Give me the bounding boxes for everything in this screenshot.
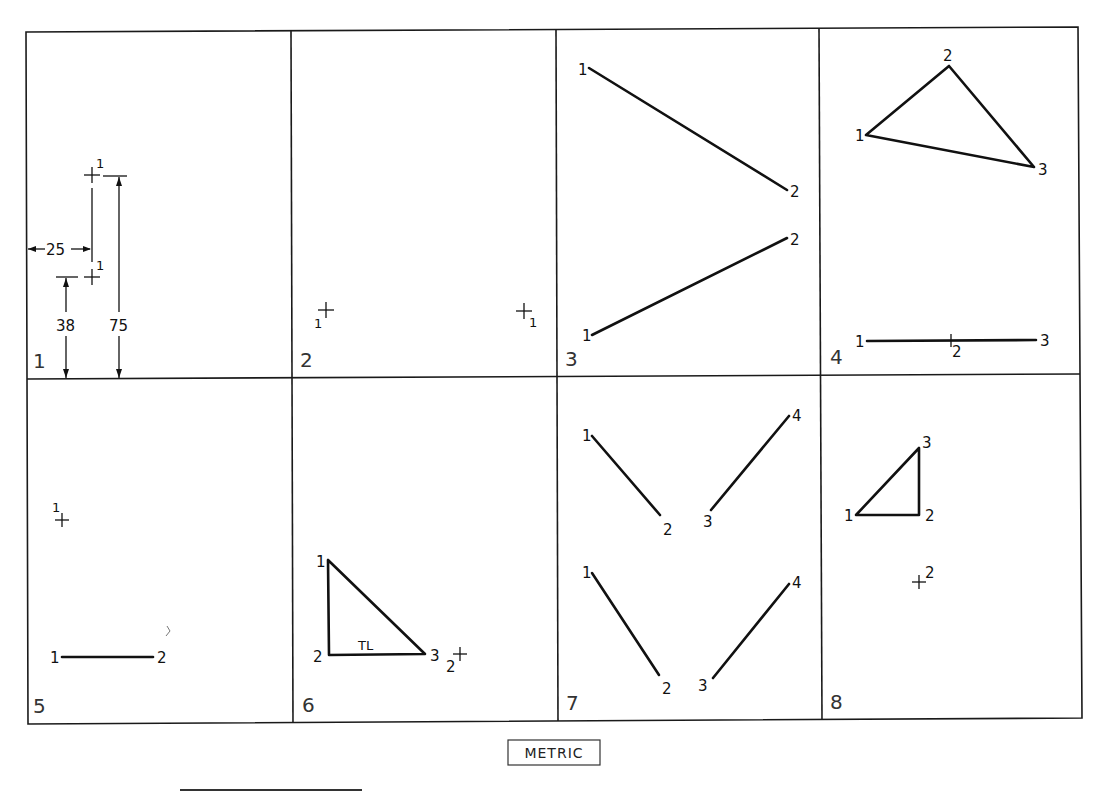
vertex-label: 2: [313, 648, 323, 666]
point-label: 3: [1040, 332, 1050, 350]
point-label: 2: [925, 564, 935, 582]
point-label: 1: [96, 156, 104, 171]
dimension-value-25: 25: [46, 241, 65, 259]
point-label: 1: [50, 649, 60, 667]
panel-number-5: 5: [33, 694, 46, 718]
metric-badge: METRIC: [508, 740, 600, 765]
point-label: 1: [314, 316, 322, 331]
point-label: 2: [952, 343, 962, 361]
metric-badge-label: METRIC: [524, 745, 583, 761]
arrowhead-icon: [63, 369, 69, 378]
panel-3: 1 2 1 2: [578, 61, 800, 345]
vertex-label: 1: [844, 507, 854, 525]
point-label: 2: [662, 680, 672, 698]
line-segment: [592, 573, 659, 675]
true-length-label: TL: [357, 638, 374, 653]
point-label: 2: [157, 649, 167, 667]
arrowhead-icon: [28, 246, 36, 252]
vertex-label: 1: [855, 127, 865, 145]
panel-7: 1 2 3 4 1 2 3 4: [582, 407, 802, 698]
arrowhead-icon: [63, 278, 69, 287]
panel-number-6: 6: [302, 693, 315, 717]
panel-number-8: 8: [830, 690, 843, 714]
panel-number-2: 2: [300, 348, 313, 372]
point-label: 1: [52, 500, 60, 515]
panel-8: 1 2 3 2: [844, 434, 935, 589]
point-label: 2: [790, 183, 800, 201]
panel-1: 1 1 25 38 75: [28, 156, 128, 378]
point-label: 2: [790, 231, 800, 249]
triangle: [856, 448, 919, 515]
crosshair-point-icon: [55, 513, 69, 527]
panel-number-4: 4: [830, 345, 843, 369]
panel-5: 1 1 2: [50, 500, 170, 667]
point-label: 3: [703, 513, 713, 531]
vertex-label: 3: [430, 647, 440, 665]
crosshair-point-icon: [912, 575, 926, 589]
line-segment: [589, 68, 787, 190]
point-label: 3: [698, 677, 708, 695]
vertex-label: 2: [943, 47, 953, 65]
panel-number-7: 7: [566, 691, 579, 715]
vertical-divider-2: [556, 30, 558, 721]
stray-mark: [166, 626, 170, 636]
point-label: 1: [529, 315, 537, 330]
panel-2: 1 1: [314, 302, 537, 331]
panel-4: 1 2 3 1 2 3: [855, 47, 1050, 361]
panel-6: 1 2 3 TL 2: [313, 553, 467, 676]
line-segment: [713, 584, 789, 678]
dimension-value-38: 38: [56, 317, 75, 335]
vertical-divider-3: [819, 28, 822, 720]
point-label: 4: [792, 574, 802, 592]
horizontal-divider: [27, 374, 1080, 379]
point-label: 2: [446, 658, 456, 676]
arrowhead-icon: [116, 177, 122, 186]
vertex-label: 2: [925, 507, 935, 525]
triangle: [328, 560, 425, 655]
triangle: [866, 66, 1034, 167]
arrowhead-icon: [83, 246, 91, 252]
point-label: 1: [582, 564, 592, 582]
grid-frame: [26, 27, 1082, 724]
point-label: 1: [96, 258, 104, 273]
line-segment: [592, 238, 787, 335]
point-label: 4: [792, 407, 802, 425]
point-label: 1: [582, 327, 592, 345]
vertex-label: 3: [1038, 161, 1048, 179]
dimension-value-75: 75: [109, 317, 128, 335]
point-label: 1: [582, 427, 592, 445]
panel-number-1: 1: [33, 349, 46, 373]
vertical-divider-1: [291, 31, 293, 723]
point-label: 1: [855, 333, 865, 351]
worksheet-canvas: 1 2 3 4 5 6 7 8 1 1 25: [0, 0, 1101, 792]
line-segment: [592, 436, 660, 515]
point-label: 2: [663, 521, 673, 539]
point-label: 1: [578, 61, 588, 79]
line-segment: [711, 416, 789, 510]
vertex-label: 1: [316, 553, 326, 571]
arrowhead-icon: [116, 369, 122, 378]
vertex-label: 3: [922, 434, 932, 452]
panel-number-3: 3: [565, 347, 578, 371]
